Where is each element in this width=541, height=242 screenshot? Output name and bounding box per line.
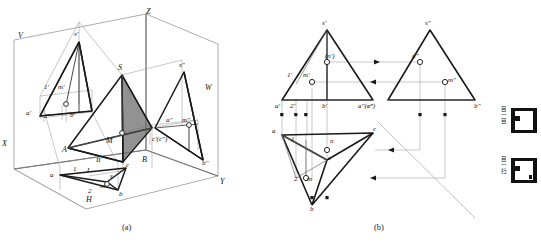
label-a-c: c [126,162,129,169]
thumbnail-top-glyphs: 目 一 目 [501,106,510,124]
label-a-s-prime: s' [74,31,78,38]
top-view-thin [282,135,327,180]
label-b-2: 2 [294,176,298,183]
label-b-a-dbl-c-dbl: a"(c") [358,103,375,110]
label-b-m-prime: m' [303,72,310,79]
label-plane-v: V [18,32,23,40]
figure-root: Z X Y V H W s' 1' m' a' 2' b' S M A B I … [0,0,541,242]
label-a-a-dbl: a" [166,117,172,124]
label-b-s-prime: s' [322,20,326,27]
label-a-a-prime: a' [26,110,31,117]
thumbnail-bottom-image [511,158,537,183]
label-a-m-prime: m' [58,84,65,91]
label-a-b-dbl: b" [202,160,208,167]
label-b-b-dbl: b" [474,103,480,110]
label-b-b: b [310,206,314,213]
label-a-M: M [106,137,113,145]
solid-pyramid [68,75,152,162]
label-a-s-dbl: s" [179,62,185,69]
label-axis-x: X [2,140,7,148]
thumbnail-bottom[interactable]: 目 一 扫 [501,156,539,186]
label-a-m: m [100,183,105,190]
label-a-A: A [62,146,67,154]
label-a-b-prime: b' [70,112,75,119]
label-a-I: I [87,167,89,174]
h-plane-outline [14,150,218,209]
w-plane-pyramid [155,72,203,160]
label-a-S: S [118,64,122,72]
label-a-1-prime: 1' [44,84,49,91]
top-view-outline [282,133,373,205]
label-a-II: II [96,157,101,164]
label-a-m-dbl: m" [182,117,190,124]
label-a-2: 2 [88,188,92,195]
label-b-c: c [373,126,376,133]
label-axis-y: Y [220,178,224,186]
label-plane-h: H [86,196,92,204]
label-b-a: a [272,128,276,135]
label-b-1-prime: 1' [287,72,292,79]
thumbnail-top-image [511,108,537,133]
label-b-1: 1 [291,136,295,143]
label-b-n-prime: (n') [325,53,335,60]
label-a-a: a [50,172,54,179]
label-b-n: n [330,138,334,145]
caption-a: (a) [122,222,131,232]
label-axis-z: Z [146,8,150,16]
label-b-m-dbl: m" [448,77,456,84]
h-plane-pyramid [60,168,126,190]
label-b-2-prime: 2' [290,103,295,110]
label-b-a-prime: a' [275,103,280,110]
thumbnail-bottom-glyphs: 目 一 扫 [501,156,510,174]
glyph-top-2: 目 [501,118,510,124]
thumbnail-top[interactable]: 目 一 目 [501,106,539,136]
label-a-s: s [110,173,113,180]
label-b-n-dbl: n" [412,53,418,60]
caption-b: (b) [374,222,384,232]
part-a-drawing [0,0,271,242]
label-plane-w: W [205,84,212,92]
side-view-outline [388,30,475,100]
miter-line-45 [378,122,475,218]
label-a-2-prime: 2' [44,113,49,120]
shaded-face-sbc [122,75,152,162]
b-projection-lines [282,62,475,218]
label-a-c-prime-c-dbl: c'(c") [152,136,167,143]
label-a-b: b [119,191,123,198]
label-b-s: s [328,155,331,162]
label-b-b-prime: b' [322,103,327,110]
label-a-B: B [142,156,147,164]
glyph-bottom-2: 扫 [501,168,510,174]
label-b-s-dbl: s" [425,20,431,27]
label-b-m: m [307,176,312,183]
label-a-1: 1 [73,166,77,173]
b-point-markers [303,59,447,180]
